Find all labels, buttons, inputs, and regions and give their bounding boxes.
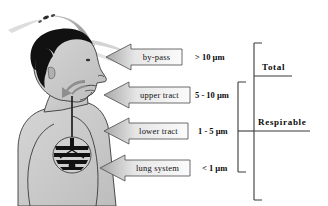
particle-2 <box>50 14 55 18</box>
bracket-respirable <box>238 82 310 172</box>
callout-label-upper-tract: upper tract <box>129 91 190 100</box>
callout-label-by-pass: by-pass <box>131 53 182 62</box>
particle-deposition-diagram: by-pass upper tract lower tract lung sys… <box>0 0 328 206</box>
size-label-by-pass: > 10 µm <box>195 53 225 62</box>
size-label-lung-system: < 1 µm <box>202 164 227 173</box>
size-label-upper-tract: 5 - 10 µm <box>195 91 229 100</box>
diagram-graphics <box>0 0 328 206</box>
callout-label-lower-tract: lower tract <box>129 127 188 136</box>
lungs <box>53 137 91 173</box>
callout-label-lung-system: lung system <box>125 164 190 173</box>
size-label-lower-tract: 1 - 5 µm <box>198 127 228 136</box>
particle-1 <box>42 15 49 20</box>
bracket-label-total: Total <box>262 63 285 72</box>
bracket-label-respirable: Respirable <box>258 118 307 127</box>
